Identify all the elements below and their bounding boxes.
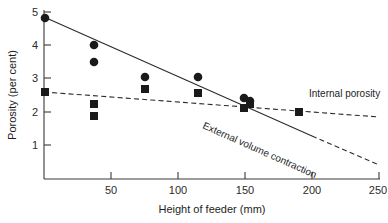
- y-tick-label-2: 2: [32, 106, 38, 118]
- x-axis-title: Height of feeder (mm): [159, 203, 266, 215]
- trendline-external-volume-contraction-solid: [44, 17, 312, 136]
- data-point-square: [90, 100, 98, 108]
- y-tick-label-4: 4: [32, 39, 38, 51]
- y-tick-labels-group: 5 4 3 2 1: [32, 6, 38, 151]
- x-ticks-group: [111, 172, 379, 179]
- x-tick-label-250: 250: [369, 184, 387, 196]
- data-point-circle: [141, 73, 150, 82]
- data-point-square: [41, 88, 49, 96]
- data-point-square: [295, 108, 303, 116]
- data-point-square: [194, 89, 202, 97]
- external-volume-contraction-label: External volume contraction: [201, 120, 318, 180]
- data-point-circle: [90, 41, 99, 50]
- x-tick-label-50: 50: [105, 184, 117, 196]
- data-point-circle: [41, 14, 50, 23]
- y-tick-label-5: 5: [32, 6, 38, 18]
- trendline-external-volume-contraction-dashed: [312, 136, 377, 164]
- y-axis-title: Porosity (per cent): [6, 50, 18, 140]
- data-point-circle: [90, 58, 99, 67]
- chart-canvas: 5 4 3 2 1 50 100 150 200 250 Height of f…: [0, 0, 388, 223]
- porosity-vs-feeder-height-chart: 5 4 3 2 1 50 100 150 200 250 Height of f…: [0, 0, 388, 223]
- internal-porosity-label: Internal porosity: [309, 88, 380, 99]
- y-tick-label-3: 3: [32, 72, 38, 84]
- data-point-circle: [194, 73, 203, 82]
- data-point-square: [141, 85, 149, 93]
- x-tick-label-100: 100: [169, 184, 187, 196]
- data-point-square: [90, 112, 98, 120]
- x-tick-label-200: 200: [303, 184, 321, 196]
- y-tick-label-1: 1: [32, 139, 38, 151]
- data-point-square: [246, 100, 254, 108]
- y-ticks-group: [44, 12, 51, 145]
- x-tick-labels-group: 50 100 150 200 250: [105, 184, 387, 196]
- x-tick-label-150: 150: [236, 184, 254, 196]
